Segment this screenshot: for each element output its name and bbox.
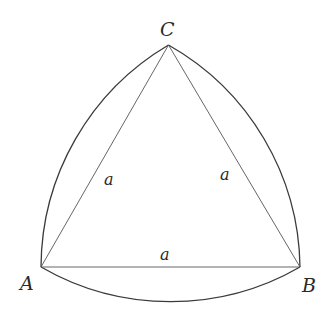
side-label-AC: a bbox=[104, 170, 114, 189]
reuleaux-diagram: C A B a a a bbox=[0, 0, 331, 316]
side-label-BC: a bbox=[220, 165, 230, 184]
arc-BA bbox=[41, 267, 300, 302]
side-CB bbox=[169, 45, 301, 267]
vertex-label-C: C bbox=[160, 18, 175, 40]
vertex-label-B: B bbox=[301, 274, 316, 296]
side-label-AB: a bbox=[160, 245, 170, 264]
vertex-label-A: A bbox=[18, 272, 34, 294]
side-AC bbox=[41, 45, 169, 267]
